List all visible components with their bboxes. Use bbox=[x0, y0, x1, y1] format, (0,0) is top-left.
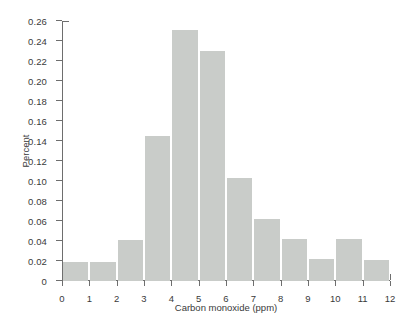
bar-series bbox=[62, 21, 390, 281]
y-axis-tick-label: 0.16 bbox=[28, 115, 47, 126]
histogram-bar bbox=[172, 30, 197, 281]
y-axis-tick-label: 0.12 bbox=[28, 155, 47, 166]
x-axis-tick: 5 bbox=[199, 281, 200, 286]
y-axis-tick-label: 0.10 bbox=[28, 175, 47, 186]
x-axis-tick: 8 bbox=[281, 281, 282, 286]
histogram-bar bbox=[309, 259, 334, 281]
x-axis-tick: 0 bbox=[62, 281, 63, 286]
y-axis-tick-label: 0.08 bbox=[28, 195, 47, 206]
x-axis-tick: 1 bbox=[89, 281, 90, 286]
histogram-bar bbox=[364, 260, 389, 281]
x-axis-tick: 3 bbox=[144, 281, 145, 286]
y-axis-tick-label: 0.06 bbox=[28, 215, 47, 226]
histogram-figure: 00.020.040.060.080.100.120.140.160.180.2… bbox=[0, 0, 409, 323]
y-axis-tick-label: 0.22 bbox=[28, 55, 47, 66]
x-axis-tick: 7 bbox=[253, 281, 254, 286]
plot-area: 00.020.040.060.080.100.120.140.160.180.2… bbox=[62, 21, 390, 281]
histogram-bar bbox=[63, 262, 88, 281]
y-axis-tick-label: 0.24 bbox=[28, 35, 47, 46]
x-axis-tick: 6 bbox=[226, 281, 227, 286]
x-axis-right-stub bbox=[390, 274, 391, 280]
y-axis-tick-label: 0.20 bbox=[28, 75, 47, 86]
histogram-bar bbox=[200, 51, 225, 281]
x-axis-tick: 2 bbox=[117, 281, 118, 286]
x-axis-tick: 9 bbox=[308, 281, 309, 286]
y-axis-tick-label: 0.26 bbox=[28, 15, 47, 26]
histogram-bar bbox=[254, 219, 279, 281]
y-axis-tick-label: 0 bbox=[42, 275, 47, 286]
histogram-bar bbox=[118, 240, 143, 281]
y-axis-tick-label: 0.18 bbox=[28, 95, 47, 106]
y-axis-tick-label: 0.14 bbox=[28, 135, 47, 146]
x-axis-tick: 4 bbox=[171, 281, 172, 286]
x-axis-tick: 12 bbox=[390, 281, 391, 286]
y-axis-tick-label: 0.04 bbox=[28, 235, 47, 246]
histogram-bar bbox=[282, 239, 307, 281]
x-axis-title: Carbon monoxide (ppm) bbox=[62, 302, 390, 313]
y-axis-tick-label: 0.02 bbox=[28, 255, 47, 266]
histogram-bar bbox=[145, 136, 170, 281]
y-axis-title: Percent bbox=[20, 135, 31, 168]
x-axis-tick: 11 bbox=[363, 281, 364, 286]
histogram-bar bbox=[90, 262, 115, 281]
histogram-bar bbox=[336, 239, 361, 281]
histogram-bar bbox=[227, 178, 252, 281]
x-axis-tick: 10 bbox=[335, 281, 336, 286]
